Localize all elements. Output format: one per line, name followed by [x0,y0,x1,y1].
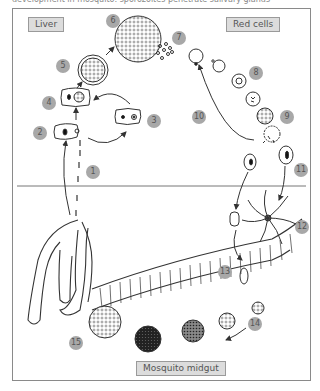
oocyst-large [182,320,204,342]
stage-badge-11: 11 [294,163,308,177]
schizont-rbc [257,108,273,124]
macrogamete [230,212,239,226]
stage-badge-1: 1 [86,165,100,179]
stage-badge-8: 8 [249,66,263,80]
lifecycle-illustration [0,0,320,391]
stage-badge-3: 3 [147,114,161,128]
stage-badge-9: 9 [280,110,294,124]
ring-stage [232,74,246,88]
exflagellating-microgametocyte [242,190,296,244]
region-label-red-cells: Red cells [226,17,280,32]
oocyst-medium [219,313,235,329]
oocyst-mature [135,326,161,352]
stage-badge-12: 12 [295,220,309,234]
stage-badge-15: 15 [69,336,83,350]
stage-badge-6: 6 [106,14,120,28]
stage-badge-2: 2 [33,126,47,140]
region-label-liver: Liver [28,17,64,32]
stage-badge-7: 7 [172,31,186,45]
region-label-mosquito-midgut: Mosquito midgut [136,361,226,376]
salivary-gland [28,220,92,324]
stage-badge-5: 5 [56,59,70,73]
oocyst-small [252,302,264,314]
stage-badge-14: 14 [248,317,262,331]
stage-badge-10: 10 [192,110,206,124]
oocyst-rupturing [89,306,121,338]
ookinete [240,268,248,284]
stage-badge-13: 13 [218,265,232,279]
rbc-invasion [189,49,203,63]
stage-badge-4: 4 [42,96,56,110]
